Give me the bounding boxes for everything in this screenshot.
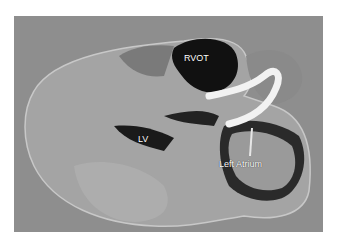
lv-label: LV: [138, 134, 148, 144]
left-atrium-label: Left Atrium: [219, 159, 262, 169]
rvot-label: RVOT: [184, 53, 209, 63]
heart-specimen-photo: RVOT LV Left Atrium: [14, 16, 323, 232]
specimen-illustration: [14, 16, 323, 232]
